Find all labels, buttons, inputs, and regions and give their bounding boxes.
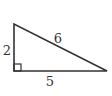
hypotenuse-label: 6 bbox=[54, 31, 62, 46]
bottom-side-label: 5 bbox=[46, 74, 54, 89]
triangle-diagram: 2 6 5 bbox=[0, 0, 112, 96]
right-angle-marker bbox=[14, 64, 21, 71]
left-side-label: 2 bbox=[3, 43, 11, 58]
